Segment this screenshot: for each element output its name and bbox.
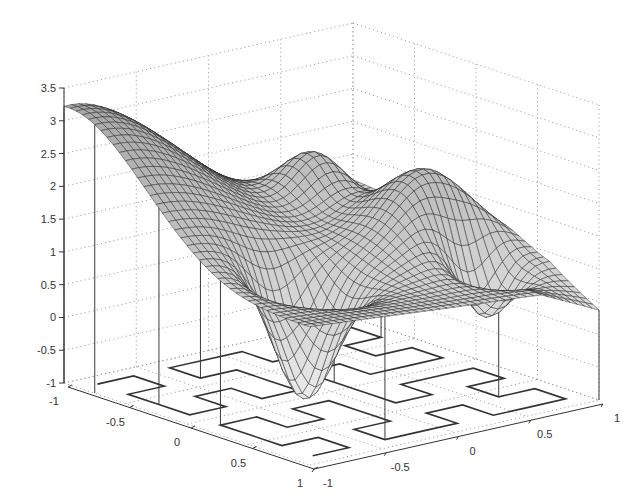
y-axis-ticks: -1-0.500.51 — [312, 404, 620, 489]
y-tick-label: 1 — [614, 412, 620, 424]
y-tick-label: 0.5 — [537, 428, 552, 440]
z-axis-ticks: -1-0.500.511.522.533.5 — [37, 82, 64, 389]
x-tick-label: 0.5 — [231, 457, 246, 469]
z-tick-label: 1.5 — [41, 213, 56, 225]
x-tick-label: 1 — [297, 477, 303, 489]
z-tick-label: 3.5 — [41, 82, 56, 94]
z-tick-label: 2.5 — [41, 148, 56, 160]
surface-plot: -1-0.500.511.522.533.5 -1-0.500.51 -1-0.… — [0, 0, 642, 496]
z-tick-label: 0 — [50, 311, 56, 323]
x-tick-label: -0.5 — [106, 416, 125, 428]
x-axis-ticks: -1-0.500.51 — [49, 385, 318, 489]
z-tick-label: 2 — [50, 180, 56, 192]
z-tick-label: 1 — [50, 246, 56, 258]
z-tick-label: 0.5 — [41, 279, 56, 291]
z-tick-label: -0.5 — [37, 344, 56, 356]
y-tick-label: -0.5 — [391, 461, 410, 473]
x-tick-label: 0 — [174, 436, 180, 448]
mesh-surface — [64, 104, 599, 399]
z-tick-label: -1 — [46, 377, 56, 389]
y-tick-label: 0 — [469, 445, 475, 457]
z-tick-label: 3 — [50, 115, 56, 127]
y-tick-label: -1 — [323, 477, 333, 489]
x-tick-label: -1 — [49, 395, 59, 407]
